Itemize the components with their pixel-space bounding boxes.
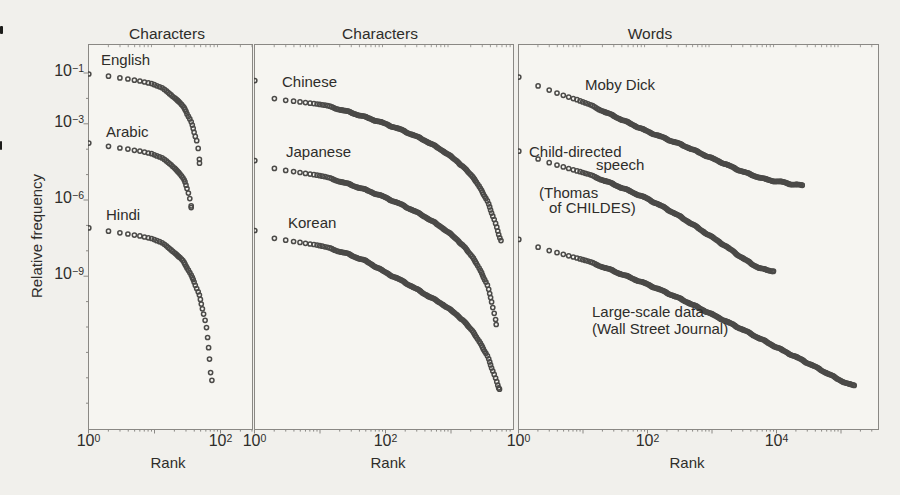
- panel-title-2: Words: [628, 26, 673, 42]
- series-label-chinese: Chinese: [282, 74, 337, 90]
- series-label-arabic: Arabic: [106, 124, 149, 140]
- y-tick-label: 10−3: [54, 114, 84, 131]
- panel-title-0: Characters: [129, 26, 205, 42]
- y-ticks: [84, 73, 89, 403]
- panel-title-1: Characters: [342, 26, 418, 42]
- x-tick-label: 100: [77, 433, 101, 450]
- series-label-korean: Korean: [288, 215, 336, 231]
- y-tick-label: 10−9: [54, 266, 84, 283]
- series-label-hindi: Hindi: [106, 207, 140, 223]
- plot-canvas: [0, 0, 900, 495]
- series-label--wall-street-journal-: (Wall Street Journal): [592, 321, 728, 337]
- x-tick-label: 102: [374, 433, 398, 450]
- zipf-figure: Relative frequency Characters100102RankE…: [0, 0, 900, 495]
- x-tick-label: 104: [765, 433, 789, 450]
- scan-artifact-1: [0, 141, 2, 150]
- series-label-english: English: [101, 52, 150, 68]
- x-tick-label: 100: [243, 433, 267, 450]
- panel-frame-0: [89, 45, 253, 430]
- series-label-speech: speech: [596, 157, 644, 173]
- scan-artifact-0: [0, 26, 3, 34]
- x-axis-title-2: Rank: [669, 455, 704, 471]
- series-label-moby-dick: Moby Dick: [585, 77, 655, 93]
- series-label-japanese: Japanese: [286, 144, 351, 160]
- x-tick-label: 102: [636, 433, 660, 450]
- series-label-of-childes-: of CHILDES): [549, 200, 636, 216]
- y-tick-label: 10−6: [54, 190, 84, 207]
- y-axis-title: Relative frequency: [29, 174, 45, 298]
- panel-frame-1: [255, 45, 514, 430]
- x-axis-title-1: Rank: [370, 455, 405, 471]
- x-tick-label: 102: [209, 433, 233, 450]
- x-axis-title-0: Rank: [150, 455, 185, 471]
- x-tick-label: 100: [507, 433, 531, 450]
- series-label-large-scale-data: Large-scale data: [592, 304, 704, 320]
- y-tick-label: 10−1: [54, 63, 84, 80]
